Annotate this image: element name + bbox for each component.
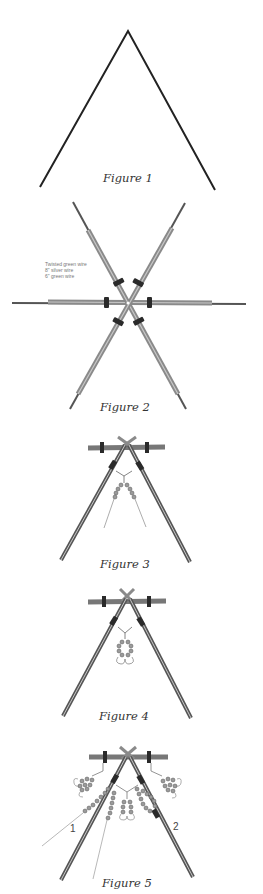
wire-frame-with-multiple-bead-strands-diagram	[0, 745, 263, 894]
v-shape-diagram	[0, 0, 263, 195]
figure-4: Figure 4	[0, 583, 263, 723]
figure-2-caption: Figure 2	[100, 400, 150, 414]
wire-frame-with-bead-chain-diagram	[0, 425, 263, 575]
wire-notes: Twisted green wire 8" silver wire 6" gre…	[45, 261, 87, 279]
figure-4-caption: Figure 4	[99, 709, 149, 723]
six-wire-star-diagram	[0, 190, 263, 420]
strand-marker-1: 1	[70, 823, 76, 834]
figure-5-caption: Figure 5	[102, 876, 152, 890]
figure-1: Figure 1	[0, 0, 263, 195]
figure-5: 1 2 Figure 5	[0, 745, 263, 894]
figure-2: Twisted green wire 8" silver wire 6" gre…	[0, 190, 263, 420]
note-green-wire: 6" green wire	[45, 273, 87, 279]
figure-3-caption: Figure 3	[100, 557, 150, 571]
wire-frame-with-bead-loop-diagram	[0, 583, 263, 723]
figure-3: Figure 3	[0, 425, 263, 575]
figure-1-caption: Figure 1	[103, 171, 153, 185]
strand-marker-2: 2	[173, 821, 179, 832]
